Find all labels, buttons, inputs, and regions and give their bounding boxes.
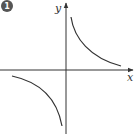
hyperbola-branch-quadrant-3 (12, 76, 62, 126)
svg-text:1: 1 (4, 2, 10, 11)
y-axis-label: y (54, 2, 62, 15)
hyperbola-branch-quadrant-1 (71, 17, 121, 66)
hyperbola-graph: 1 y x (0, 0, 135, 135)
x-axis-label: x (127, 71, 134, 84)
figure-number-badge: 1 (1, 0, 13, 12)
